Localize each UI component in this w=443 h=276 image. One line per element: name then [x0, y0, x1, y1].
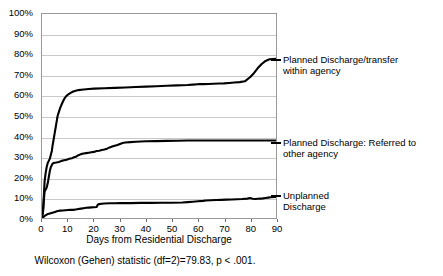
x-axis-tick-label: 60: [185, 223, 211, 234]
x-axis-tick-label: 90: [264, 223, 290, 234]
y-axis-tick-label: 30%: [14, 152, 33, 162]
y-axis-tick-label: 90%: [14, 29, 33, 39]
statistic-annotation: Wilcoxon (Gehen) statistic (df=2)=79.83,…: [0, 255, 290, 266]
series-line-0: [42, 59, 276, 218]
legend-label-line2: within agency: [283, 66, 441, 77]
x-axis-tick-label: 80: [238, 223, 264, 234]
x-axis-tick-label: 70: [212, 223, 238, 234]
x-axis-tick-mark: [41, 219, 42, 222]
x-axis-tick-label: 30: [107, 223, 133, 234]
legend-label-line1: Unplanned: [283, 191, 441, 202]
x-axis-tick-mark: [93, 219, 94, 222]
y-axis-labels: 0%10%20%30%40%50%60%70%80%90%100%: [0, 0, 33, 230]
legend-item-planned-within-agency: Planned Discharge/transfer within agency: [283, 55, 441, 76]
x-axis-tick-mark: [277, 219, 278, 222]
x-axis-tick-mark: [198, 219, 199, 222]
series-line-1: [42, 140, 276, 218]
x-axis-tick-mark: [172, 219, 173, 222]
legend-label-line2: other agency: [283, 149, 441, 160]
x-axis-tick-mark: [146, 219, 147, 222]
series-line-2: [42, 197, 276, 218]
y-axis-tick-label: 10%: [14, 193, 33, 203]
legend-label-line2: Discharge: [283, 202, 441, 213]
x-axis-tick-label: 40: [133, 223, 159, 234]
x-axis-tick-mark: [251, 219, 252, 222]
legend-label-line1: Planned Discharge: Referred to: [283, 138, 441, 149]
legend-label-line1: Planned Discharge/transfer: [283, 55, 441, 66]
legend-item-unplanned-discharge: Unplanned Discharge: [283, 191, 441, 212]
x-axis-tick-mark: [120, 219, 121, 222]
x-axis-tick-mark: [225, 219, 226, 222]
y-axis-tick-label: 60%: [14, 90, 33, 100]
x-axis-tick-label: 0: [28, 223, 54, 234]
legend-line-icon: [271, 59, 281, 61]
x-axis-title: Days from Residential Discharge: [41, 234, 277, 245]
series-lines: [42, 14, 276, 218]
y-axis-tick-label: 80%: [14, 49, 33, 59]
y-axis-tick-label: 40%: [14, 132, 33, 142]
x-axis-tick-mark: [67, 219, 68, 222]
legend-line-icon: [271, 142, 281, 144]
x-axis-tick-label: 10: [54, 223, 80, 234]
y-axis-tick-label: 50%: [14, 111, 33, 121]
x-axis: 0102030405060708090: [0, 219, 443, 235]
chart-figure: 0%10%20%30%40%50%60%70%80%90%100% 010203…: [0, 0, 443, 276]
y-axis-tick-label: 100%: [9, 8, 33, 18]
legend-line-icon: [271, 195, 281, 197]
plot-area: [41, 13, 277, 219]
x-axis-tick-label: 50: [159, 223, 185, 234]
y-axis-tick-label: 20%: [14, 173, 33, 183]
legend-item-planned-referred-other: Planned Discharge: Referred to other age…: [283, 138, 441, 159]
y-axis-tick-label: 70%: [14, 70, 33, 80]
x-axis-tick-label: 20: [80, 223, 106, 234]
